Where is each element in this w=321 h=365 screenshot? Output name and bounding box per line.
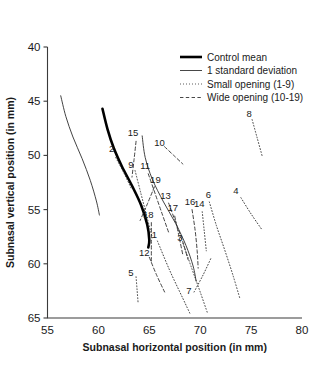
series-label-12: 12 bbox=[139, 247, 150, 258]
legend-label-1: 1 standard deviation bbox=[207, 65, 297, 76]
x-tick-label: 65 bbox=[143, 324, 156, 336]
scatter-line-plot: 404550556065556065707580Subnasal horizon… bbox=[0, 0, 321, 365]
series-label-6: 6 bbox=[206, 189, 211, 200]
legend-label-3: Wide opening (10-19) bbox=[207, 92, 303, 103]
x-tick-label: 70 bbox=[194, 324, 207, 336]
y-tick-label: 65 bbox=[28, 312, 41, 324]
series-line-control-mean bbox=[102, 109, 149, 248]
series-line-12 bbox=[149, 257, 164, 292]
series-label-10: 10 bbox=[154, 137, 165, 148]
series-line-7 bbox=[194, 257, 211, 292]
chart-figure: 404550556065556065707580Subnasal horizon… bbox=[0, 0, 321, 365]
series-line-1 bbox=[157, 241, 190, 314]
series-label-1: 1 bbox=[152, 229, 157, 240]
legend-label-2: Small opening (1-9) bbox=[207, 79, 294, 90]
y-tick-label: 40 bbox=[28, 41, 41, 53]
y-tick-label: 60 bbox=[28, 258, 41, 270]
series-label-17: 17 bbox=[167, 202, 178, 213]
legend-label-0: Control mean bbox=[207, 52, 267, 63]
series-line-16 bbox=[192, 210, 198, 269]
series-line--1-standard-deviation bbox=[61, 96, 100, 215]
series-label-8: 8 bbox=[246, 108, 251, 119]
series-label-15: 15 bbox=[128, 127, 139, 138]
x-tick-label: 75 bbox=[245, 324, 258, 336]
series-line-4 bbox=[241, 198, 262, 231]
series-label-11: 11 bbox=[140, 160, 150, 171]
series-line-14 bbox=[202, 212, 206, 251]
series-line-10 bbox=[165, 147, 183, 164]
series-line-8 bbox=[252, 120, 262, 157]
series-label-14: 14 bbox=[194, 198, 205, 209]
y-tick-label: 55 bbox=[28, 204, 41, 216]
series-label-9: 9 bbox=[128, 159, 133, 170]
series-label-5: 5 bbox=[128, 267, 133, 278]
x-tick-label: 60 bbox=[92, 324, 105, 336]
series-line-5 bbox=[136, 277, 138, 303]
series-label-2: 2 bbox=[109, 143, 114, 154]
y-tick-label: 45 bbox=[28, 95, 41, 107]
series-label-19: 19 bbox=[150, 174, 161, 185]
series-line-6 bbox=[209, 202, 240, 298]
series-label-7: 7 bbox=[186, 285, 191, 296]
x-tick-label: 80 bbox=[296, 324, 309, 336]
y-tick-label: 50 bbox=[28, 149, 41, 161]
series-label-16: 16 bbox=[185, 196, 196, 207]
x-tick-label: 55 bbox=[41, 324, 54, 336]
y-axis-title: Subnasal vertical position (in mm) bbox=[4, 97, 16, 268]
series-label-4: 4 bbox=[233, 185, 238, 196]
x-axis-title: Subnasal horizontal position (in mm) bbox=[83, 341, 267, 353]
series-label-13: 13 bbox=[160, 190, 171, 201]
series-label-18: 18 bbox=[143, 209, 154, 220]
